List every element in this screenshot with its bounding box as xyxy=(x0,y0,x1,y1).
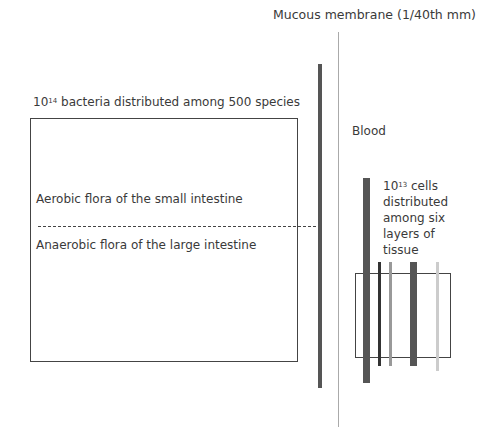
cells-line-4: layers of xyxy=(383,226,448,242)
bacteria-text: bacteria distributed among 500 species xyxy=(57,95,300,109)
flora-divider-dashed xyxy=(38,226,321,227)
cells-label: 1013 cells distributed among six layers … xyxy=(383,178,448,258)
anaerobic-label: Anaerobic flora of the large intestine xyxy=(36,238,256,253)
tissue-layer-4 xyxy=(410,262,417,366)
membrane-thin-line xyxy=(338,32,339,427)
bacteria-base: 10 xyxy=(33,95,48,109)
mucous-membrane-bar xyxy=(318,64,322,388)
bacteria-exponent: 14 xyxy=(48,97,57,105)
aerobic-label: Aerobic flora of the small intestine xyxy=(36,192,243,207)
cells-line-3: among six xyxy=(383,210,448,226)
blood-label: Blood xyxy=(352,124,386,139)
bacteria-label: 1014 bacteria distributed among 500 spec… xyxy=(33,95,300,110)
tissue-layer-5 xyxy=(436,262,439,371)
cells-line-5: tissue xyxy=(383,242,448,258)
cells-line-2: distributed xyxy=(383,194,448,210)
tissue-layer-2 xyxy=(378,262,381,366)
membrane-label: Mucous membrane (1/40th mm) xyxy=(273,7,476,22)
cells-line-1: 1013 cells xyxy=(383,178,448,194)
tissue-layer-3 xyxy=(389,262,392,366)
tissue-layer-1 xyxy=(363,178,370,383)
